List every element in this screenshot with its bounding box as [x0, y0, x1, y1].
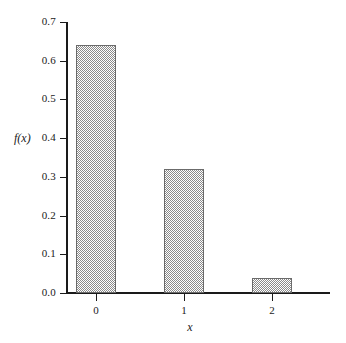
- bar: [252, 278, 292, 293]
- y-tick-label: 0.1: [16, 248, 56, 259]
- x-tick-mark: [96, 294, 97, 301]
- x-tick-mark: [272, 294, 273, 301]
- y-tick-mark: [60, 293, 66, 294]
- y-tick-label: 0.0: [16, 287, 56, 298]
- x-axis-label: x: [170, 320, 210, 335]
- caption-sliver: [8, 336, 308, 343]
- x-tick-mark: [184, 294, 185, 301]
- bar: [76, 45, 116, 293]
- bar: [164, 169, 204, 293]
- y-tick-label: 0.6: [16, 55, 56, 66]
- x-tick-label: 0: [76, 304, 116, 316]
- x-tick-label: 1: [164, 304, 204, 316]
- bars-layer: [66, 22, 330, 293]
- y-tick-label: 0.3: [16, 171, 56, 182]
- bar-chart-figure: 0.00.10.20.30.40.50.60.7 012 f(x) x: [0, 0, 346, 343]
- y-tick-label: 0.2: [16, 210, 56, 221]
- y-tick-label: 0.5: [16, 93, 56, 104]
- x-tick-label: 2: [252, 304, 292, 316]
- y-tick-label: 0.7: [16, 16, 56, 27]
- y-axis-label: f(x): [14, 131, 31, 146]
